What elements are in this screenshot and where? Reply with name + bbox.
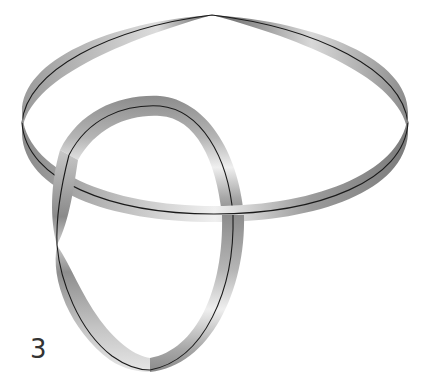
- figure-label: 3: [30, 336, 47, 362]
- ribbon-rings-illustration: [0, 0, 423, 384]
- horizontal-ring-back: [22, 15, 408, 134]
- vertical-ring-right: [150, 215, 244, 372]
- vertical-ring-left: [52, 150, 150, 372]
